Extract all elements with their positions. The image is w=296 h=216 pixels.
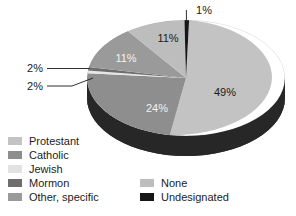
- pie-label-catholic: 24%: [146, 102, 168, 114]
- pie-slices: [87, 20, 285, 136]
- pie-label-none: 11%: [157, 32, 178, 44]
- legend-label-catholic: Catholic: [29, 148, 69, 162]
- legend-column-right: None Undesignated: [140, 176, 229, 204]
- legend-label-protestant: Protestant: [29, 134, 79, 148]
- chart-legend: Protestant Catholic Jewish Mormon Other,…: [8, 134, 296, 214]
- legend-swatch-undesignated: [140, 193, 154, 201]
- legend-swatch-jewish: [8, 165, 22, 173]
- leader-line-jewish: [47, 78, 93, 86]
- pie-label-undesignated: 1%: [196, 4, 212, 16]
- pie-label-other-specific: 11%: [115, 52, 136, 64]
- legend-label-none: None: [161, 176, 187, 190]
- legend-swatch-protestant: [8, 137, 22, 145]
- legend-label-jewish: Jewish: [29, 162, 63, 176]
- legend-item-other-specific[interactable]: Other, specific: [8, 190, 99, 204]
- pie-label-mormon: 2%: [27, 62, 43, 74]
- legend-swatch-mormon: [8, 179, 22, 187]
- legend-item-catholic[interactable]: Catholic: [8, 148, 99, 162]
- legend-swatch-other-specific: [8, 193, 22, 201]
- legend-item-jewish[interactable]: Jewish: [8, 162, 99, 176]
- legend-item-mormon[interactable]: Mormon: [8, 176, 99, 190]
- legend-label-undesignated: Undesignated: [161, 190, 229, 204]
- legend-swatch-none: [140, 179, 154, 187]
- legend-label-mormon: Mormon: [29, 176, 69, 190]
- legend-column-left: Protestant Catholic Jewish Mormon Other,…: [8, 134, 99, 204]
- legend-swatch-catholic: [8, 151, 22, 159]
- pie-label-protestant: 49%: [214, 86, 236, 98]
- legend-item-none[interactable]: None: [140, 176, 229, 190]
- legend-item-protestant[interactable]: Protestant: [8, 134, 99, 148]
- legend-item-undesignated[interactable]: Undesignated: [140, 190, 229, 204]
- pie-label-jewish: 2%: [27, 80, 43, 92]
- legend-label-other-specific: Other, specific: [29, 190, 99, 204]
